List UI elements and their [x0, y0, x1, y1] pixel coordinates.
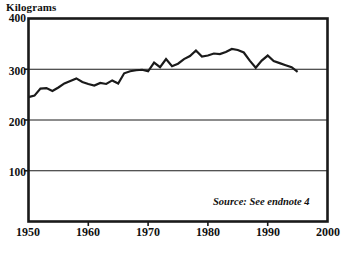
y-tick-label-200: 200: [0, 117, 26, 128]
x-tick-label-1960: 1960: [68, 226, 108, 238]
x-tick-label-1950: 1950: [8, 226, 48, 238]
y-tick-label-300: 300: [0, 66, 26, 77]
plot-area: [0, 0, 353, 255]
data-series-line: [29, 49, 298, 97]
chart-figure: Kilograms 400 300 200 100 1950 1960 1970…: [0, 0, 353, 255]
x-tick-label-1980: 1980: [188, 226, 228, 238]
y-tick-label-100: 100: [0, 167, 26, 178]
gridlines: [29, 69, 328, 171]
y-tick-label-400: 400: [0, 13, 26, 24]
x-tick-label-2000: 2000: [308, 226, 348, 238]
x-tick-label-1990: 1990: [248, 226, 288, 238]
source-annotation: Source: See endnote 4: [213, 196, 310, 207]
x-tick-label-1970: 1970: [128, 226, 168, 238]
